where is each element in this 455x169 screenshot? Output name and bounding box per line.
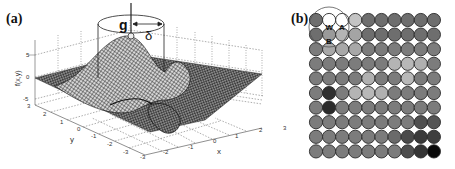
population-grid: W A B bbox=[0, 0, 455, 169]
grid-cell bbox=[309, 28, 322, 41]
cell-label-b: B bbox=[326, 37, 332, 46]
grid-cell bbox=[388, 130, 401, 143]
grid-cell bbox=[388, 43, 401, 56]
grid-cell bbox=[349, 130, 362, 143]
grid-cell bbox=[375, 116, 388, 129]
grid-cell bbox=[401, 86, 414, 99]
grid-cell bbox=[427, 57, 440, 70]
grid-cell bbox=[388, 28, 401, 41]
grid-cell bbox=[375, 28, 388, 41]
grid-cell bbox=[362, 57, 375, 70]
grid-cell bbox=[309, 43, 322, 56]
grid-cell bbox=[401, 72, 414, 85]
grid-cell bbox=[349, 13, 362, 26]
grid-cell bbox=[414, 86, 427, 99]
grid-cell bbox=[362, 116, 375, 129]
grid-cell bbox=[336, 86, 349, 99]
grid-cell bbox=[349, 28, 362, 41]
grid-cell bbox=[414, 57, 427, 70]
grid-cell bbox=[323, 101, 336, 114]
grid-cell bbox=[336, 72, 349, 85]
grid-cell bbox=[414, 28, 427, 41]
cell-label-a: A bbox=[339, 23, 345, 32]
grid-cell bbox=[427, 116, 440, 129]
grid-cell bbox=[336, 43, 349, 56]
grid-cell bbox=[349, 72, 362, 85]
grid-cell bbox=[414, 43, 427, 56]
grid-cell bbox=[362, 86, 375, 99]
grid-cell bbox=[336, 116, 349, 129]
grid-cell bbox=[388, 72, 401, 85]
grid-cell bbox=[414, 101, 427, 114]
grid-cell bbox=[401, 130, 414, 143]
grid-cell bbox=[388, 86, 401, 99]
grid-cell bbox=[375, 130, 388, 143]
grid-cell bbox=[375, 145, 388, 158]
grid-cells bbox=[309, 13, 440, 158]
grid-cell bbox=[427, 130, 440, 143]
grid-cell bbox=[375, 57, 388, 70]
grid-cell bbox=[362, 101, 375, 114]
grid-cell bbox=[362, 130, 375, 143]
grid-cell bbox=[362, 43, 375, 56]
grid-cell bbox=[388, 145, 401, 158]
grid-cell bbox=[309, 57, 322, 70]
grid-cell bbox=[362, 145, 375, 158]
grid-cell bbox=[427, 13, 440, 26]
grid-cell bbox=[401, 101, 414, 114]
grid-cell bbox=[375, 72, 388, 85]
grid-cell bbox=[323, 57, 336, 70]
grid-cell bbox=[427, 145, 440, 158]
grid-cell bbox=[401, 116, 414, 129]
grid-cell bbox=[362, 72, 375, 85]
grid-cell bbox=[309, 101, 322, 114]
grid-cell bbox=[309, 86, 322, 99]
grid-cell bbox=[414, 116, 427, 129]
grid-cell bbox=[323, 116, 336, 129]
grid-cell bbox=[427, 28, 440, 41]
grid-cell bbox=[349, 57, 362, 70]
grid-cell bbox=[388, 57, 401, 70]
grid-cell bbox=[375, 101, 388, 114]
grid-cell bbox=[336, 57, 349, 70]
grid-cell bbox=[414, 130, 427, 143]
grid-cell bbox=[427, 101, 440, 114]
grid-cell bbox=[336, 145, 349, 158]
grid-cell bbox=[362, 28, 375, 41]
grid-cell bbox=[414, 145, 427, 158]
grid-cell bbox=[323, 72, 336, 85]
grid-cell bbox=[362, 13, 375, 26]
grid-cell bbox=[427, 43, 440, 56]
grid-cell bbox=[401, 57, 414, 70]
grid-cell bbox=[401, 145, 414, 158]
grid-cell bbox=[309, 13, 322, 26]
grid-cell bbox=[309, 145, 322, 158]
grid-cell bbox=[349, 101, 362, 114]
grid-cell bbox=[323, 86, 336, 99]
grid-cell bbox=[388, 116, 401, 129]
cell-label-w: W bbox=[326, 23, 334, 32]
grid-cell bbox=[349, 116, 362, 129]
grid-cell bbox=[375, 13, 388, 26]
grid-cell bbox=[349, 145, 362, 158]
grid-cell bbox=[309, 72, 322, 85]
grid-cell bbox=[323, 145, 336, 158]
grid-cell bbox=[375, 86, 388, 99]
grid-cell bbox=[323, 130, 336, 143]
grid-cell bbox=[349, 43, 362, 56]
grid-cell bbox=[349, 86, 362, 99]
grid-cell bbox=[427, 86, 440, 99]
grid-cell bbox=[309, 130, 322, 143]
grid-cell bbox=[336, 101, 349, 114]
grid-cell bbox=[336, 130, 349, 143]
grid-cell bbox=[401, 43, 414, 56]
grid-cell bbox=[401, 28, 414, 41]
grid-cell bbox=[427, 72, 440, 85]
grid-cell bbox=[401, 13, 414, 26]
grid-cell bbox=[388, 13, 401, 26]
grid-cell bbox=[388, 101, 401, 114]
grid-cell bbox=[375, 43, 388, 56]
grid-cell bbox=[414, 13, 427, 26]
grid-cell bbox=[414, 72, 427, 85]
grid-cell bbox=[309, 116, 322, 129]
